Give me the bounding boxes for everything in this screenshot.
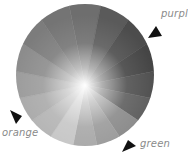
arrow-purple-icon	[148, 26, 162, 38]
label-green: green	[140, 138, 170, 149]
color-wheel	[16, 4, 154, 146]
arrow-green-icon	[122, 140, 136, 152]
arrow-orange-icon	[10, 110, 22, 124]
label-orange: orange	[2, 127, 38, 138]
label-purple: purple	[161, 8, 188, 19]
wheel-center-glow	[16, 4, 154, 146]
